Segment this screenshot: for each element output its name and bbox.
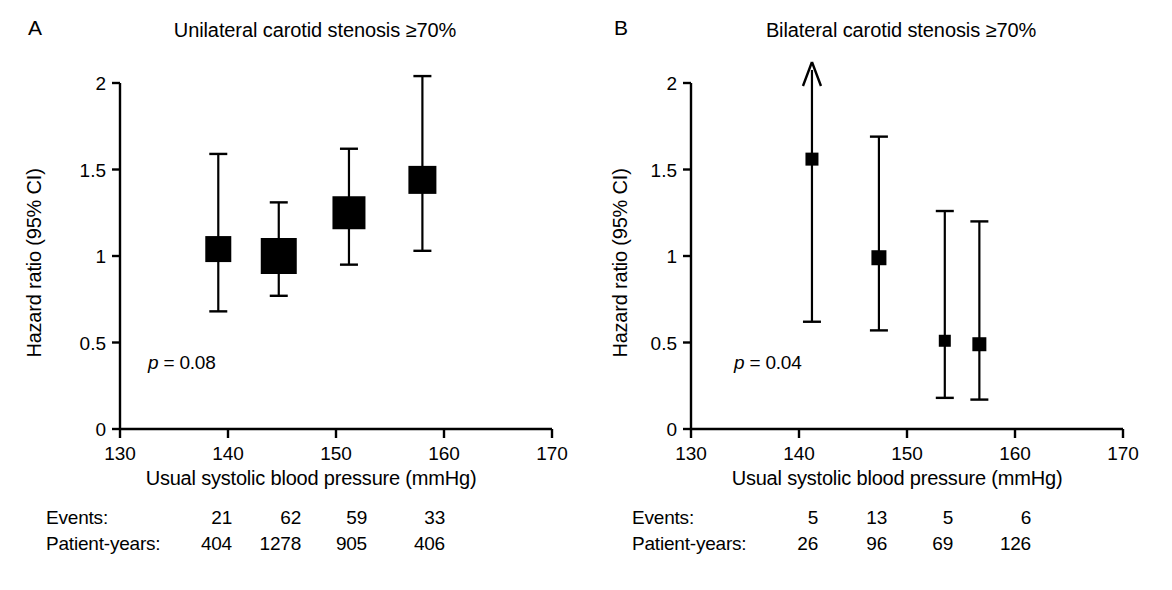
y-tick-label-4: 2 <box>95 73 106 94</box>
panel-b-events-value-2: 13 <box>825 505 887 531</box>
hr-marker-box-3 <box>332 196 365 229</box>
panel-b-events-value-1: 5 <box>756 505 818 531</box>
panel-b-events-label: Events: <box>632 505 694 531</box>
panel-a-pvalue-symbol: p <box>148 352 158 373</box>
hr-marker-box-4 <box>408 166 436 194</box>
figure-root: A Unilateral carotid stenosis ≥70% 00.51… <box>0 0 1172 590</box>
y-tick-label-2: 1 <box>95 246 106 267</box>
axes-group: 00.511.52130140150160170 <box>651 73 1139 464</box>
x-tick-label-1: 140 <box>212 443 244 464</box>
data-point-2 <box>870 137 888 331</box>
panel-a-events-value-1: 21 <box>170 505 232 531</box>
hr-marker-box-3 <box>939 335 951 347</box>
panel-a-events-value-4: 33 <box>383 505 445 531</box>
y-tick-label-3: 1.5 <box>651 160 677 181</box>
panel-b-pvalue-symbol: p <box>734 352 744 373</box>
panel-b-plot: 00.511.52130140150160170 <box>586 0 1172 470</box>
panel-a-plot: 00.511.52130140150160170 <box>0 0 586 470</box>
panel-b-patient-years-label: Patient-years: <box>632 531 746 557</box>
hr-marker-box-2 <box>261 238 297 274</box>
x-tick-label-2: 150 <box>891 443 923 464</box>
panel-a-pvalue: p = 0.08 <box>148 352 216 373</box>
x-tick-label-1: 140 <box>783 443 815 464</box>
panel-b-pvalue: p = 0.04 <box>734 352 802 373</box>
panel-a-patient-years-value-2: 1278 <box>239 531 301 557</box>
panel-a: A Unilateral carotid stenosis ≥70% 00.51… <box>0 0 586 590</box>
data-point-1 <box>205 154 231 311</box>
panel-a-patient-years-label: Patient-years: <box>46 531 160 557</box>
y-tick-label-0: 0 <box>666 419 677 440</box>
panel-a-events-value-2: 62 <box>239 505 301 531</box>
x-tick-label-2: 150 <box>320 443 352 464</box>
y-tick-label-4: 2 <box>666 73 677 94</box>
hr-marker-box-2 <box>871 250 886 265</box>
hr-marker-box-1 <box>805 153 818 166</box>
panel-b-x-axis-title: Usual systolic blood pressure (mmHg) <box>652 466 1142 490</box>
panel-a-pvalue-number: = 0.08 <box>158 352 215 373</box>
x-tick-label-3: 160 <box>428 443 460 464</box>
panel-b-patient-years-value-2: 96 <box>825 531 887 557</box>
hr-marker-box-4 <box>972 337 986 351</box>
panel-b-pvalue-number: = 0.04 <box>744 352 801 373</box>
panel-a-y-axis-title: Hazard ratio (95% CI) <box>23 113 45 413</box>
panel-b-counts-events-row: Events: 5 13 5 6 <box>586 505 1172 531</box>
y-tick-label-0: 0 <box>95 419 106 440</box>
panel-b-patient-years-value-3: 69 <box>891 531 953 557</box>
x-tick-label-3: 160 <box>999 443 1031 464</box>
panel-b-y-axis-title: Hazard ratio (95% CI) <box>609 113 631 413</box>
panel-a-patient-years-value-4: 406 <box>383 531 445 557</box>
data-point-4 <box>970 221 988 399</box>
data-point-4 <box>408 76 436 251</box>
panel-b-events-value-3: 5 <box>891 505 953 531</box>
data-point-3 <box>332 149 365 265</box>
panel-b-counts-table: Events: 5 13 5 6 Patient-years: 26 96 69… <box>586 505 1172 567</box>
y-tick-label-3: 1.5 <box>80 160 106 181</box>
data-point-1 <box>803 62 821 322</box>
x-tick-label-0: 130 <box>675 443 707 464</box>
axes-group: 00.511.52130140150160170 <box>80 73 568 464</box>
panel-a-counts-patient-years-row: Patient-years: 404 1278 905 406 <box>0 531 586 557</box>
hr-marker-box-1 <box>205 236 231 262</box>
panel-b-patient-years-value-4: 126 <box>969 531 1031 557</box>
panel-a-x-axis-title: Usual systolic blood pressure (mmHg) <box>66 466 556 490</box>
x-tick-label-4: 170 <box>1107 443 1139 464</box>
panel-a-events-label: Events: <box>46 505 108 531</box>
panel-a-patient-years-value-3: 905 <box>305 531 367 557</box>
y-tick-label-1: 0.5 <box>80 333 106 354</box>
y-tick-label-1: 0.5 <box>651 333 677 354</box>
panel-b-patient-years-value-1: 26 <box>756 531 818 557</box>
data-point-2 <box>261 202 297 295</box>
panel-b: B Bilateral carotid stenosis ≥70% 00.511… <box>586 0 1172 590</box>
panel-a-events-value-3: 59 <box>305 505 367 531</box>
panel-b-counts-patient-years-row: Patient-years: 26 96 69 126 <box>586 531 1172 557</box>
x-tick-label-4: 170 <box>536 443 568 464</box>
panel-a-counts-events-row: Events: 21 62 59 33 <box>0 505 586 531</box>
panel-a-counts-table: Events: 21 62 59 33 Patient-years: 404 1… <box>0 505 586 567</box>
data-point-3 <box>936 211 954 398</box>
y-tick-label-2: 1 <box>666 246 677 267</box>
x-tick-label-0: 130 <box>104 443 136 464</box>
panel-b-events-value-4: 6 <box>969 505 1031 531</box>
panel-a-patient-years-value-1: 404 <box>170 531 232 557</box>
